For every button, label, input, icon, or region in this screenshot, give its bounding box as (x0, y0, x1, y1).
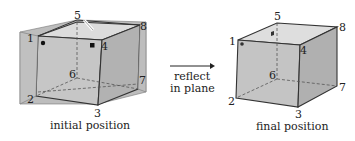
circle-marker (240, 42, 244, 46)
right-vertex-4: 4 (300, 44, 307, 57)
right-vertex-5: 5 (274, 10, 281, 23)
left-caption: initial position (50, 119, 130, 132)
left-vertex-6: 6 (69, 68, 76, 81)
left-vertex-1: 1 (27, 32, 34, 45)
right-vertex-7: 7 (339, 81, 346, 94)
right-vertex-1: 1 (229, 35, 236, 48)
reflection-diagram: 1 2 3 4 5 6 7 8 initial position reflect… (0, 0, 355, 141)
right-caption: final position (256, 120, 328, 133)
left-vertex-2: 2 (27, 93, 34, 106)
arrow-head-icon (210, 63, 215, 69)
right-vertex-8: 8 (339, 21, 346, 34)
circle-marker (41, 41, 45, 45)
left-vertex-7: 7 (139, 74, 146, 87)
right-vertex-6: 6 (269, 69, 276, 82)
left-vertex-5: 5 (74, 9, 81, 22)
left-cube: 1 2 3 4 5 6 7 8 initial position (20, 9, 147, 132)
right-vertex-2: 2 (228, 95, 235, 108)
square-marker (90, 43, 95, 48)
reflect-arrow: reflect in plane (170, 63, 215, 95)
left-vertex-4: 4 (101, 40, 108, 53)
right-cube: 1 2 3 4 5 6 7 8 final position (228, 10, 346, 133)
left-vertex-8: 8 (140, 20, 147, 33)
right-front-face (236, 40, 300, 107)
arrow-label-in-plane: in plane (170, 82, 215, 95)
